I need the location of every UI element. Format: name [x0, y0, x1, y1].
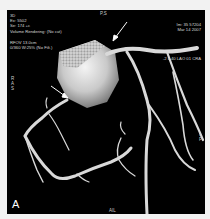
- obtuse-marginal: [173, 72, 193, 160]
- study-date: Mar 14 2007: [177, 27, 201, 32]
- orientation-left: R A S: [10, 76, 15, 91]
- orientation-top: P,S: [100, 11, 107, 16]
- rca-branch-3: [46, 98, 47, 108]
- render-mode: Volume Rendering: (No cut): [10, 29, 62, 34]
- circumflex: [167, 52, 203, 140]
- view-angle: -2 L 40 LAO 01 CRA: [163, 56, 201, 61]
- rca-branch-4: [77, 174, 89, 182]
- diagonal-branch: [149, 105, 195, 170]
- window-value: 0/360 W:25% (No Filt.): [10, 45, 52, 50]
- lad-septal: [121, 122, 126, 134]
- volume-rendering-viewport[interactable]: 3D Ex: 5502 Se: 174 +c Volume Rendering:…: [7, 10, 205, 214]
- left-main-artery: [107, 48, 197, 54]
- arrow-icon: [115, 22, 127, 38]
- rca-branch-2: [49, 114, 69, 150]
- image-info-overlay: Im: 35 57204 Mar 14 2007: [177, 22, 201, 32]
- fov-overlay: RFOV 13.0cm 0/360 W:25% (No Filt.): [10, 40, 52, 50]
- right-coronary-artery: [25, 100, 131, 179]
- panel-label: A: [12, 198, 19, 210]
- left-anterior-descending: [127, 52, 150, 214]
- orientation-bottom: AIL: [109, 208, 116, 213]
- study-info-overlay: 3D Ex: 5502 Se: 174 +c Volume Rendering:…: [10, 13, 62, 34]
- arrowhead-icon: [113, 35, 118, 41]
- orientation-right: L P: [198, 132, 203, 142]
